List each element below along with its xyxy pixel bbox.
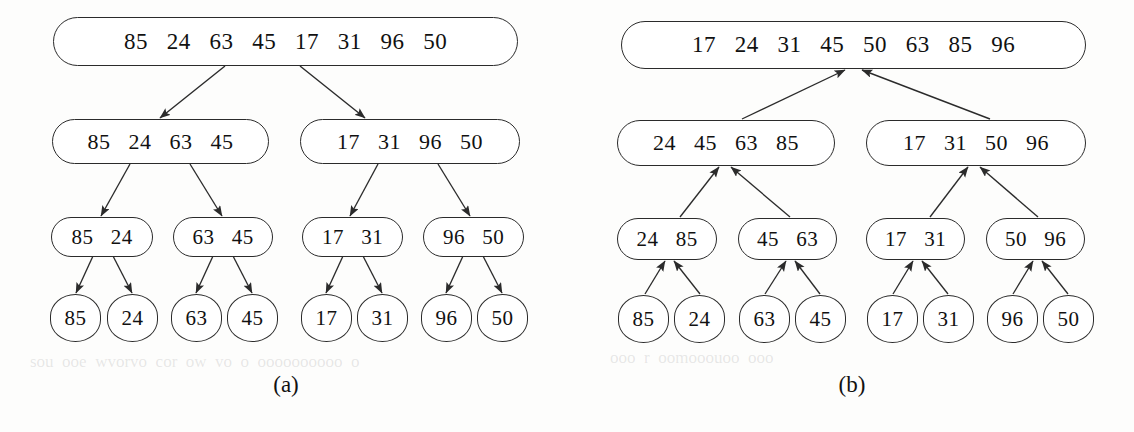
node-b-l1-0[interactable]: 24 45 63 85 [617,120,835,166]
node-b-l2-3[interactable]: 50 96 [986,218,1085,260]
node-b-l3-3[interactable]: 45 [795,295,846,343]
node-a-l1-0[interactable]: 85 24 63 45 [52,119,269,164]
node-a-l1-1[interactable]: 17 31 96 50 [300,119,520,164]
node-a-l3-3[interactable]: 45 [227,294,278,342]
node-a-l3-5[interactable]: 31 [357,294,408,342]
node-a-l2-0[interactable]: 85 24 [51,217,153,257]
merge-sort-figure: sou ooe wvorvo cor ow vo o oooooooooo o … [0,0,1134,432]
node-a-l3-0[interactable]: 85 [50,294,101,342]
node-b-l3-4[interactable]: 17 [867,295,918,343]
node-a-l3-1[interactable]: 24 [107,294,158,342]
panel-a-edges [76,66,502,293]
node-b-l3-6[interactable]: 96 [987,295,1038,343]
node-a-l3-2[interactable]: 63 [171,294,222,342]
node-b-l3-1[interactable]: 24 [674,295,725,343]
node-a-l0-0[interactable]: 85 24 63 45 17 31 96 50 [53,17,518,66]
panel-b-edges [645,70,1068,294]
node-b-l3-2[interactable]: 63 [739,295,790,343]
node-b-l3-0[interactable]: 85 [618,295,669,343]
panel-a-caption: (a) [246,372,326,398]
node-b-l3-5[interactable]: 31 [923,295,974,343]
node-a-l2-2[interactable]: 17 31 [302,217,403,257]
node-b-l2-1[interactable]: 45 63 [738,218,837,260]
node-b-l2-0[interactable]: 24 85 [617,218,717,260]
node-b-l3-7[interactable]: 50 [1043,295,1094,343]
node-a-l3-7[interactable]: 50 [477,294,528,342]
panel-b-caption: (b) [812,372,892,398]
node-b-l1-1[interactable]: 17 31 50 96 [866,120,1086,166]
node-a-l3-4[interactable]: 17 [301,294,352,342]
node-a-l3-6[interactable]: 96 [421,294,472,342]
node-a-l2-1[interactable]: 63 45 [173,217,273,257]
node-a-l2-3[interactable]: 96 50 [423,217,524,257]
node-b-l0-0[interactable]: 17 24 31 45 50 63 85 96 [621,21,1086,69]
node-b-l2-2[interactable]: 17 31 [866,218,965,260]
